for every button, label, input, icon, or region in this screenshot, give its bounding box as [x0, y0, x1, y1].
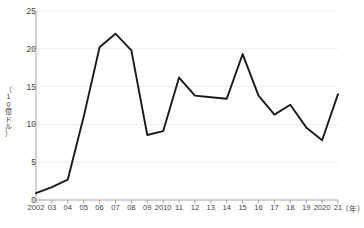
x-tick-label: 13 [207, 203, 215, 212]
x-tick-label: 18 [286, 203, 294, 212]
x-axis-unit-label: （年） [341, 203, 364, 214]
x-tick-label: 15 [238, 203, 246, 212]
x-tick-label: 17 [270, 203, 278, 212]
x-tick-label: 14 [223, 203, 231, 212]
x-tick-label: 08 [127, 203, 135, 212]
x-tick-label: 2010 [155, 203, 172, 212]
x-tick-label: 06 [95, 203, 103, 212]
x-tick-label: 03 [48, 203, 56, 212]
x-tick-label: 11 [175, 203, 183, 212]
x-tick-label: 07 [111, 203, 119, 212]
x-tick-label: 19 [302, 203, 310, 212]
x-tick-label: 2020 [314, 203, 331, 212]
x-tick-label: 05 [79, 203, 87, 212]
x-tick-label: 09 [143, 203, 151, 212]
data-series-line [36, 34, 338, 194]
x-tick-label: 2002 [28, 203, 45, 212]
x-tick-label: 04 [64, 203, 72, 212]
x-tick-label: 16 [254, 203, 262, 212]
x-tick-label: 12 [191, 203, 199, 212]
